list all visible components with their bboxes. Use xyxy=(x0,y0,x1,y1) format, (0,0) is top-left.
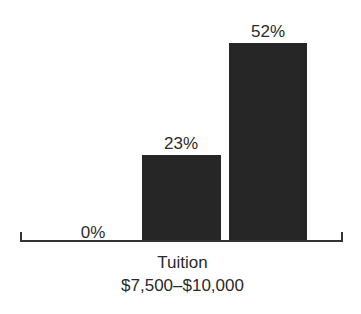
x-axis-label-line2: $7,500–$10,000 xyxy=(2,276,361,296)
value-label-2: 52% xyxy=(228,22,308,42)
x-axis-left-tick xyxy=(20,232,22,242)
bar-2 xyxy=(229,43,307,241)
x-axis-right-tick xyxy=(341,232,343,242)
x-axis-label-line1: Tuition xyxy=(2,253,361,273)
value-label-1: 23% xyxy=(141,134,221,154)
x-axis xyxy=(20,240,343,242)
bar-1 xyxy=(142,155,221,241)
